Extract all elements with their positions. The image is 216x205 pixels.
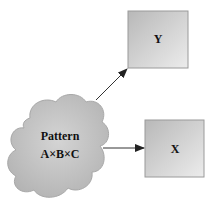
pattern-cloud-node: Pattern A×B×C <box>8 95 109 198</box>
diagram-canvas: Pattern A×B×C Y X <box>0 0 216 205</box>
box-x-label: X <box>171 142 180 156</box>
arrow-pattern-to-y <box>96 69 127 100</box>
cloud-label-line1: Pattern <box>41 129 80 143</box>
box-y-node: Y <box>128 11 188 68</box>
cloud-shape <box>8 95 109 198</box>
box-x-node: X <box>145 120 204 177</box>
cloud-label-line2: A×B×C <box>40 147 79 161</box>
box-y-label: Y <box>154 32 163 46</box>
